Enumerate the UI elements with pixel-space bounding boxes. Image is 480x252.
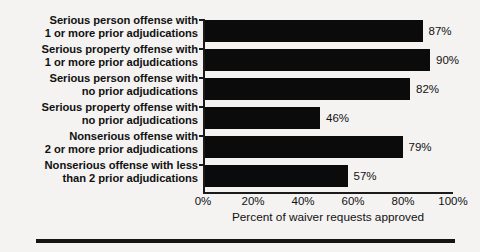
category-label-2-line-1: no prior adjudications <box>10 85 198 98</box>
bar-4 <box>205 136 403 158</box>
bar-2 <box>205 78 410 100</box>
bar-value-1: 90% <box>430 54 459 66</box>
bar-5 <box>205 165 348 187</box>
bar-value-4: 79% <box>403 141 432 153</box>
bar-value-3: 46% <box>320 112 349 124</box>
category-label-1: Serious property offense with 1 or more … <box>10 43 198 68</box>
bottom-divider-rule <box>36 239 455 243</box>
bar-value-0: 87% <box>423 25 452 37</box>
x-axis-line <box>203 192 453 194</box>
x-tick-label-2: 40% <box>291 195 314 207</box>
bar-value-2: 82% <box>410 83 439 95</box>
category-label-3: Serious property offense with no prior a… <box>10 101 198 126</box>
bar-chart-figure: Serious person offense with 1 or more pr… <box>0 0 480 252</box>
x-axis-title: Percent of waiver requests approved <box>203 210 453 224</box>
category-label-4-line-1: 2 or more prior adjudications <box>10 143 198 156</box>
category-label-4-line-0: Nonserious offense with <box>10 130 198 143</box>
category-label-0-line-0: Serious person offense with <box>10 14 198 27</box>
category-label-5-line-0: Nonserious offense with less <box>10 159 198 172</box>
category-label-4: Nonserious offense with 2 or more prior … <box>10 130 198 155</box>
x-tick-label-3: 60% <box>341 195 364 207</box>
category-label-5: Nonserious offense with less than 2 prio… <box>10 159 198 184</box>
category-label-3-line-1: no prior adjudications <box>10 114 198 127</box>
x-tick-label-0: 0% <box>195 195 212 207</box>
category-label-2: Serious person offense with no prior adj… <box>10 72 198 97</box>
category-label-1-line-0: Serious property offense with <box>10 43 198 56</box>
x-tick-label-5: 100% <box>438 195 467 207</box>
category-label-1-line-1: 1 or more prior adjudications <box>10 56 198 69</box>
bar-0 <box>205 20 423 42</box>
category-axis-labels: Serious person offense with 1 or more pr… <box>10 14 198 192</box>
category-label-5-line-1: than 2 prior adjudications <box>10 172 198 185</box>
x-tick-label-1: 20% <box>241 195 264 207</box>
x-axis-tick-labels: 0% 20% 40% 60% 80% 100% <box>0 195 480 211</box>
bar-1 <box>205 49 430 71</box>
plot-area: 87% 90% 82% 46% 79% 57% <box>203 14 455 192</box>
bar-3 <box>205 107 320 129</box>
category-label-0: Serious person offense with 1 or more pr… <box>10 14 198 39</box>
x-tick-label-4: 80% <box>391 195 414 207</box>
category-label-0-line-1: 1 or more prior adjudications <box>10 27 198 40</box>
category-label-2-line-0: Serious person offense with <box>10 72 198 85</box>
category-label-3-line-0: Serious property offense with <box>10 101 198 114</box>
bar-value-5: 57% <box>348 170 377 182</box>
